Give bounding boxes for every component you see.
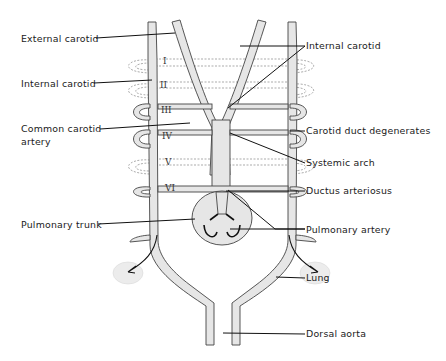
right-pulmonary-branch <box>296 235 316 242</box>
left-labels: External carotid Internal carotid Common… <box>21 33 102 230</box>
numeral-III: III <box>161 105 172 115</box>
label-pulmonary-artery: Pulmonary artery <box>306 224 391 235</box>
label-internal-carotid-left: Internal carotid <box>21 78 96 89</box>
label-internal-carotid-right: Internal carotid <box>306 40 381 51</box>
aortic-arch-diagram: I II III IV V VI External carotid Intern… <box>0 0 446 361</box>
right-labels: Internal carotid Carotid duct degenerate… <box>306 40 430 339</box>
numeral-V: V <box>164 157 172 167</box>
left-dorsal-vessel <box>148 22 214 345</box>
left-pulmonary-branch <box>130 235 150 242</box>
label-common-carotid-artery: artery <box>21 136 51 147</box>
numeral-II: II <box>160 80 168 90</box>
label-systemic-arch: Systemic arch <box>306 157 375 168</box>
label-dorsal-aorta: Dorsal aorta <box>306 328 366 339</box>
label-ductus-arteriosus: Ductus arteriosus <box>306 185 392 196</box>
numeral-I: I <box>163 56 167 66</box>
label-carotid-duct-degenerates: Carotid duct degenerates <box>306 125 430 136</box>
label-external-carotid: External carotid <box>21 33 99 44</box>
numeral-VI: VI <box>164 183 175 193</box>
heart <box>192 191 252 245</box>
label-pulmonary-trunk: Pulmonary trunk <box>21 219 102 230</box>
numeral-IV: IV <box>162 131 173 141</box>
leader-lines <box>94 33 305 334</box>
label-lung: Lung <box>306 272 330 283</box>
label-common-carotid: Common carotid <box>21 123 102 134</box>
arch-III <box>134 104 307 120</box>
